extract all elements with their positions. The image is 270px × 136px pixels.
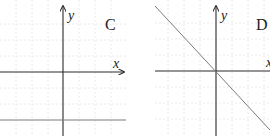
panel-label-c: C	[105, 16, 116, 33]
y-axis-label-d: y	[219, 8, 228, 23]
y-axis-label-c: y	[66, 8, 75, 23]
graphs-figure: y x C y x D	[0, 0, 270, 136]
x-axis-label-c: x	[112, 56, 120, 71]
panel-label-d: D	[256, 16, 268, 33]
panel-d: y x D	[155, 0, 270, 136]
x-axis-label-d: x	[265, 55, 270, 70]
panel-c: y x C	[0, 0, 126, 136]
graph-line-d	[155, 6, 270, 130]
